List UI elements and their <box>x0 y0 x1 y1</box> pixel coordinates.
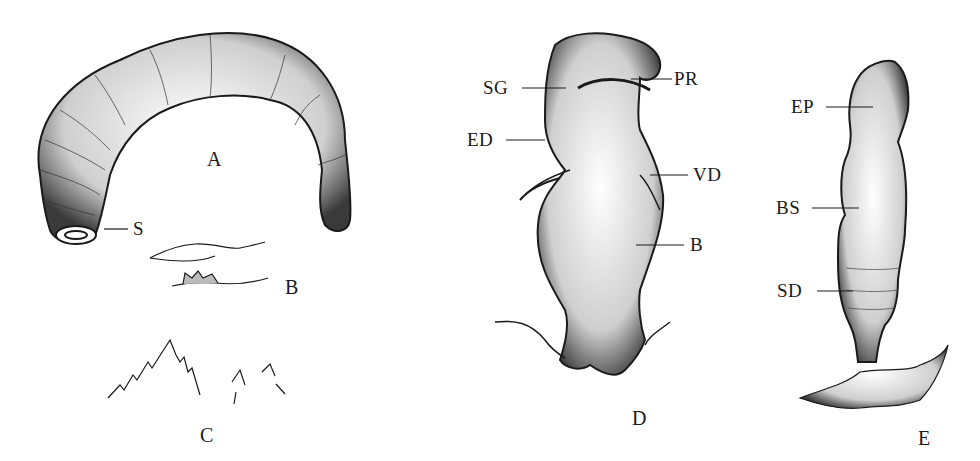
organ-d-drawing <box>495 33 688 374</box>
label-ep: EP <box>791 97 814 116</box>
mouth-hooks-drawing <box>150 242 268 286</box>
label-b-part: B <box>690 235 703 254</box>
label-vd: VD <box>693 165 721 184</box>
organ-e-drawing <box>800 61 948 409</box>
illustration-canvas <box>0 0 980 461</box>
panel-label-b: B <box>285 277 298 297</box>
panel-label-c: C <box>200 425 213 445</box>
panel-label-a: A <box>207 149 221 169</box>
spines-drawing <box>108 340 285 404</box>
panel-label-e: E <box>918 428 930 448</box>
label-pr: PR <box>674 69 698 88</box>
panel-label-d: D <box>632 408 646 428</box>
label-s-spiracle: S <box>133 219 144 238</box>
label-ed: ED <box>467 130 493 149</box>
label-sd: SD <box>777 281 802 300</box>
larva-drawing <box>38 33 350 244</box>
label-bs: BS <box>776 198 800 217</box>
label-sg: SG <box>483 78 508 97</box>
